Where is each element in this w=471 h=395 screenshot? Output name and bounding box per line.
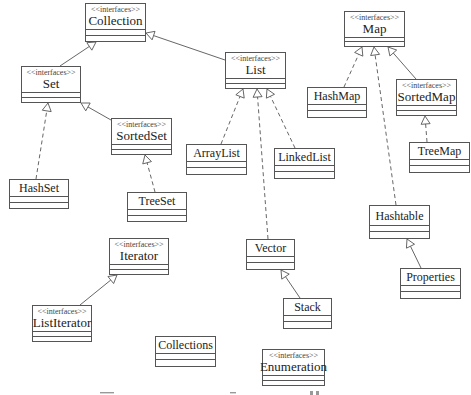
class-name: Collection (88, 14, 142, 28)
methods-compartment (22, 97, 80, 102)
class-name: Hashtable (376, 209, 424, 223)
class-header: <<interfaces>>ListIterator (33, 306, 91, 331)
class-box-sortedset: <<interfaces>>SortedSet (111, 118, 172, 155)
class-box-hashmap: HashMap (307, 87, 367, 118)
edge-implements-hashset-to-set (36, 111, 47, 179)
class-header: Properties (401, 269, 460, 285)
class-box-iterator: <<interfaces>>Iterator (109, 238, 169, 275)
methods-compartment (308, 110, 366, 117)
class-name: TreeMap (418, 144, 462, 158)
edge-extends-listiterator-to-iterator (80, 280, 111, 305)
class-header: <<interfaces>>Enumeration (263, 350, 324, 375)
class-name: Set (43, 77, 60, 91)
class-header: TreeMap (410, 143, 469, 159)
class-box-list: <<interfaces>>List (225, 52, 286, 89)
caption-cutoff (100, 389, 380, 395)
class-name: HashMap (314, 89, 361, 103)
edge-implements-treemap-to-sortedmap (426, 124, 427, 142)
class-header: <<interfaces>>Map (345, 12, 404, 37)
class-name: Collections (158, 338, 213, 352)
methods-compartment (86, 35, 145, 41)
inheritance-arrowhead-icon (42, 103, 51, 112)
class-name: SortedSet (116, 129, 167, 143)
edge-implements-arraylist-to-list (221, 96, 240, 144)
edge-extends-sortedmap-to-map (393, 53, 416, 79)
methods-compartment (284, 321, 331, 328)
edge-implements-hashtable-to-map (375, 55, 396, 205)
methods-compartment (156, 359, 215, 366)
class-name: Enumeration (260, 360, 327, 374)
class-header: <<interfaces>>Iterator (110, 239, 168, 264)
class-header: HashMap (308, 88, 366, 104)
edge-implements-linkedlist-to-list (270, 96, 295, 148)
edge-extends-stack-to-vector (285, 277, 300, 298)
methods-compartment (226, 83, 285, 88)
class-header: <<interfaces>>Collection (86, 4, 145, 29)
class-header: ArrayList (187, 145, 246, 161)
class-name: LinkedList (278, 150, 331, 164)
class-header: Collections (156, 337, 215, 353)
class-name: Iterator (120, 249, 158, 263)
inheritance-arrowhead-icon (281, 270, 289, 279)
methods-compartment (33, 336, 91, 341)
inheritance-arrowhead-icon (146, 31, 155, 40)
class-box-map: <<interfaces>>Map (344, 11, 405, 47)
inheritance-arrowhead-icon (355, 47, 363, 56)
inheritance-arrowhead-icon (253, 89, 262, 97)
class-box-properties: Properties (400, 268, 461, 299)
class-header: <<interfaces>>Set (22, 67, 80, 92)
uml-diagram: <<interfaces>>Collection<<interfaces>>Se… (0, 0, 471, 395)
methods-compartment (110, 269, 168, 274)
methods-compartment (397, 110, 456, 115)
inheritance-arrowhead-icon (388, 47, 397, 56)
class-box-treemap: TreeMap (409, 142, 470, 173)
class-name: List (245, 63, 265, 77)
class-name: Map (363, 22, 387, 36)
methods-compartment (247, 262, 294, 269)
class-name: Properties (406, 270, 455, 284)
methods-compartment (263, 380, 324, 385)
methods-compartment (10, 202, 68, 208)
edge-implements-vector-to-list (258, 97, 268, 239)
class-name: SortedMap (398, 90, 456, 104)
methods-compartment (112, 149, 171, 154)
class-box-hashset: HashSet (9, 179, 69, 209)
class-header: Vector (247, 240, 294, 256)
class-name: ArrayList (193, 146, 240, 160)
inheritance-arrowhead-icon (108, 275, 117, 284)
class-box-sortedmap: <<interfaces>>SortedMap (396, 79, 457, 116)
class-header: LinkedList (275, 149, 334, 165)
class-box-treeset: TreeSet (127, 192, 187, 222)
methods-compartment (128, 215, 186, 221)
class-box-linkedlist: LinkedList (274, 148, 335, 179)
class-header: <<interfaces>>SortedMap (397, 80, 456, 105)
methods-compartment (410, 165, 469, 172)
edge-extends-list-to-collection (154, 36, 225, 60)
methods-compartment (370, 231, 429, 238)
edge-extends-properties-to-hashtable (410, 246, 421, 268)
methods-compartment (187, 167, 246, 174)
edge-implements-treeset-to-sortedset (147, 163, 155, 192)
class-box-enumeration: <<interfaces>>Enumeration (262, 349, 325, 386)
class-name: Stack (294, 300, 321, 314)
caption-fragment (100, 389, 380, 395)
edge-implements-hashmap-to-map (344, 54, 359, 87)
class-header: <<interfaces>>SortedSet (112, 119, 171, 144)
class-box-collection: <<interfaces>>Collection (85, 3, 146, 42)
class-header: <<interfaces>>List (226, 53, 285, 78)
class-box-arraylist: ArrayList (186, 144, 247, 175)
class-header: Hashtable (370, 206, 429, 225)
class-header: HashSet (10, 180, 68, 196)
class-box-set: <<interfaces>>Set (21, 66, 81, 103)
class-name: TreeSet (139, 194, 176, 208)
class-box-vector: Vector (246, 239, 295, 270)
edge-extends-sortedset-to-set (88, 107, 111, 120)
class-name: HashSet (19, 181, 59, 195)
class-box-hashtable: Hashtable (369, 205, 430, 239)
inheritance-arrowhead-icon (236, 89, 244, 98)
class-box-stack: Stack (283, 298, 332, 329)
class-name: Vector (255, 241, 286, 255)
class-header: TreeSet (128, 193, 186, 209)
class-header: Stack (284, 299, 331, 315)
class-box-listiterator: <<interfaces>>ListIterator (32, 305, 92, 342)
